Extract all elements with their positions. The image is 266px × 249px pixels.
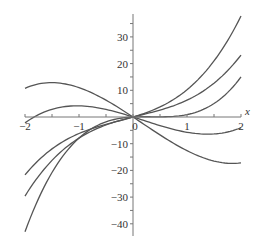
- ticks-group: −2−1012302010−10−20−30−40: [19, 24, 244, 230]
- y-tick-label: −20: [111, 164, 129, 176]
- y-tick-label: −40: [111, 218, 129, 230]
- x-tick-label: 1: [184, 120, 190, 132]
- y-tick-label: 20: [117, 58, 129, 70]
- x-tick-label: 0: [132, 120, 138, 132]
- y-tick-label: 10: [117, 84, 129, 96]
- x-tick-label: 2: [238, 120, 244, 132]
- y-tick-label: −10: [111, 138, 129, 150]
- x-axis-label: x: [244, 105, 250, 117]
- y-tick-label: 30: [117, 31, 129, 43]
- x-tick-label: −2: [19, 120, 31, 132]
- x-tick-label: −1: [73, 120, 85, 132]
- y-tick-label: −30: [111, 191, 129, 203]
- chart: −2−1012302010−10−20−30−40 x: [0, 0, 266, 249]
